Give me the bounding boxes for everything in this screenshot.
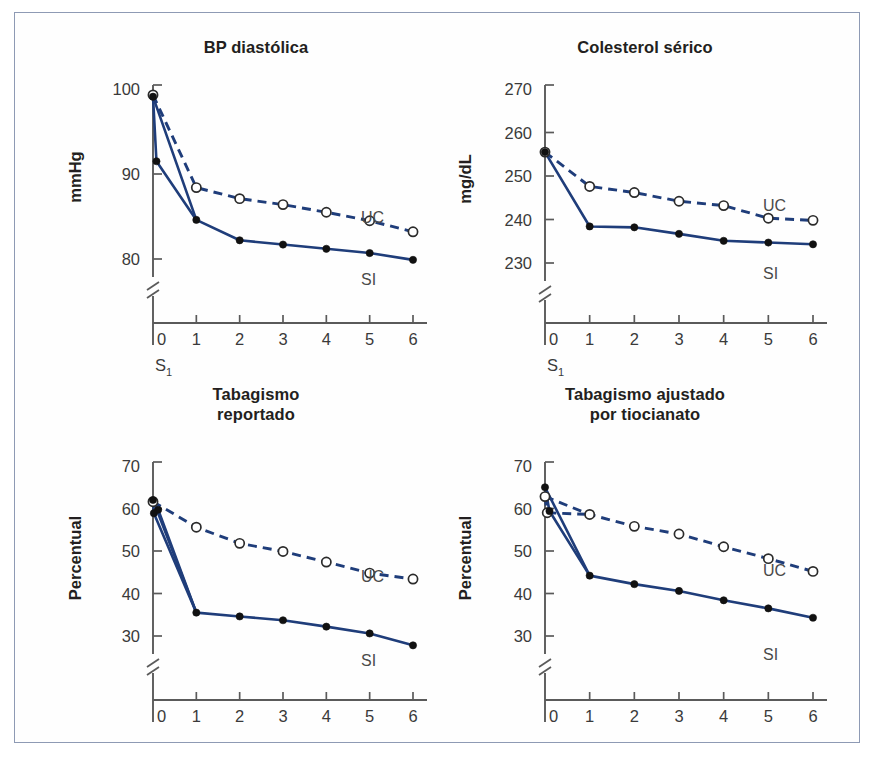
data-point-si xyxy=(409,642,416,649)
y-axis-title: Percentual xyxy=(66,516,84,600)
x-tick-label: 1 xyxy=(585,707,594,725)
x-tick-label: 5 xyxy=(764,707,773,725)
y-tick-label: 50 xyxy=(122,542,140,560)
data-point-si xyxy=(631,224,638,231)
series-line-si xyxy=(545,487,813,617)
data-point-si xyxy=(546,507,553,514)
data-point-si xyxy=(409,256,416,263)
data-point-si xyxy=(236,237,243,244)
chart-grid: BP diastólica mmHg80901000123456S1UCSI C… xyxy=(15,13,859,742)
series-label-uc: UC xyxy=(361,568,384,585)
data-point-uc xyxy=(630,188,639,197)
series-label-si: SI xyxy=(763,265,778,282)
data-point-uc xyxy=(630,522,639,531)
y-tick-label: 40 xyxy=(122,585,140,603)
x-tick-label: 0 xyxy=(549,330,558,348)
series-label-uc: UC xyxy=(361,209,384,226)
y-axis-title: mmHg xyxy=(66,151,84,202)
x-tick-label: 5 xyxy=(365,707,374,725)
y-tick-label: 100 xyxy=(112,80,140,98)
data-point-si xyxy=(366,630,373,637)
data-point-uc xyxy=(585,510,594,519)
data-point-uc xyxy=(808,216,817,225)
chart-plot-colesterol-serico: mg/dL2302402502602700123456S1UCSI xyxy=(445,27,845,377)
x-tick-label: 4 xyxy=(719,707,728,725)
x-tick-label: 1 xyxy=(192,707,201,725)
data-point-si xyxy=(150,510,157,517)
axis-break-icon xyxy=(147,659,159,667)
y-tick-label: 250 xyxy=(504,167,532,185)
y-tick-label: 70 xyxy=(122,457,140,475)
data-point-uc xyxy=(322,208,331,217)
data-point-uc xyxy=(540,492,549,501)
chart-plot-tabagismo-reportado: Percentual30405060700123456S1UCSI xyxy=(61,378,451,736)
series-segment-si xyxy=(549,511,589,576)
data-point-uc xyxy=(408,227,417,236)
data-point-uc xyxy=(719,542,728,551)
axis-break-icon xyxy=(147,282,159,290)
data-point-si xyxy=(586,223,593,230)
data-point-si xyxy=(149,496,156,503)
data-point-si xyxy=(720,597,727,604)
y-axis-title: Percentual xyxy=(456,516,474,600)
series-label-si: SI xyxy=(361,652,376,669)
x-tick-label: 4 xyxy=(322,707,331,725)
chart-panel-colesterol-serico: Colesterol sérico mg/dL23024025026027001… xyxy=(445,27,845,377)
data-point-uc xyxy=(192,183,201,192)
x-tick-label: 6 xyxy=(808,330,817,348)
data-point-uc xyxy=(764,214,773,223)
data-point-si xyxy=(541,484,548,491)
figure-frame: BP diastólica mmHg80901000123456S1UCSI C… xyxy=(14,12,860,743)
data-point-si xyxy=(765,239,772,246)
series-label-si: SI xyxy=(763,646,778,663)
data-point-si xyxy=(765,605,772,612)
data-point-si xyxy=(541,148,548,155)
y-tick-label: 30 xyxy=(514,627,532,645)
x-axis-origin-note: S1 xyxy=(547,733,564,736)
series-label-si: SI xyxy=(361,271,376,288)
x-axis-origin-note: S1 xyxy=(155,356,172,377)
data-point-uc xyxy=(408,574,417,583)
data-point-si xyxy=(366,249,373,256)
series-segment-si xyxy=(156,161,196,220)
x-tick-label: 0 xyxy=(157,707,166,725)
x-tick-label: 3 xyxy=(674,330,683,348)
chart-panel-bp-diastolica: BP diastólica mmHg80901000123456S1UCSI xyxy=(61,27,451,377)
x-tick-label: 0 xyxy=(157,330,166,348)
chart-plot-tabagismo-ajustado: Percentual30405060700123456S1UCSI xyxy=(445,378,845,736)
data-point-si xyxy=(193,216,200,223)
y-tick-label: 230 xyxy=(504,254,532,272)
data-point-uc xyxy=(585,182,594,191)
x-tick-label: 5 xyxy=(764,330,773,348)
data-point-si xyxy=(149,93,156,100)
data-point-si xyxy=(809,614,816,621)
x-tick-label: 2 xyxy=(235,330,244,348)
data-point-uc xyxy=(674,529,683,538)
x-tick-label: 2 xyxy=(630,330,639,348)
series-segment-si xyxy=(154,513,196,612)
series-segment-uc xyxy=(547,513,589,515)
data-point-uc xyxy=(278,200,287,209)
series-label-uc: UC xyxy=(763,197,786,214)
axis-break-icon xyxy=(539,659,551,667)
y-tick-label: 90 xyxy=(122,165,140,183)
y-tick-label: 50 xyxy=(514,542,532,560)
x-tick-label: 4 xyxy=(322,330,331,348)
data-point-uc xyxy=(674,197,683,206)
data-point-si xyxy=(675,587,682,594)
data-point-uc xyxy=(192,523,201,532)
x-axis-origin-note: S1 xyxy=(155,733,172,736)
x-tick-label: 1 xyxy=(585,330,594,348)
data-point-uc xyxy=(808,567,817,576)
y-tick-label: 240 xyxy=(504,211,532,229)
x-tick-label: 3 xyxy=(674,707,683,725)
data-point-si xyxy=(675,230,682,237)
data-point-uc xyxy=(719,201,728,210)
x-tick-label: 6 xyxy=(808,707,817,725)
x-tick-label: 4 xyxy=(719,330,728,348)
data-point-si xyxy=(279,617,286,624)
y-tick-label: 40 xyxy=(514,585,532,603)
y-tick-label: 60 xyxy=(122,500,140,518)
data-point-si xyxy=(279,241,286,248)
y-tick-label: 60 xyxy=(514,500,532,518)
